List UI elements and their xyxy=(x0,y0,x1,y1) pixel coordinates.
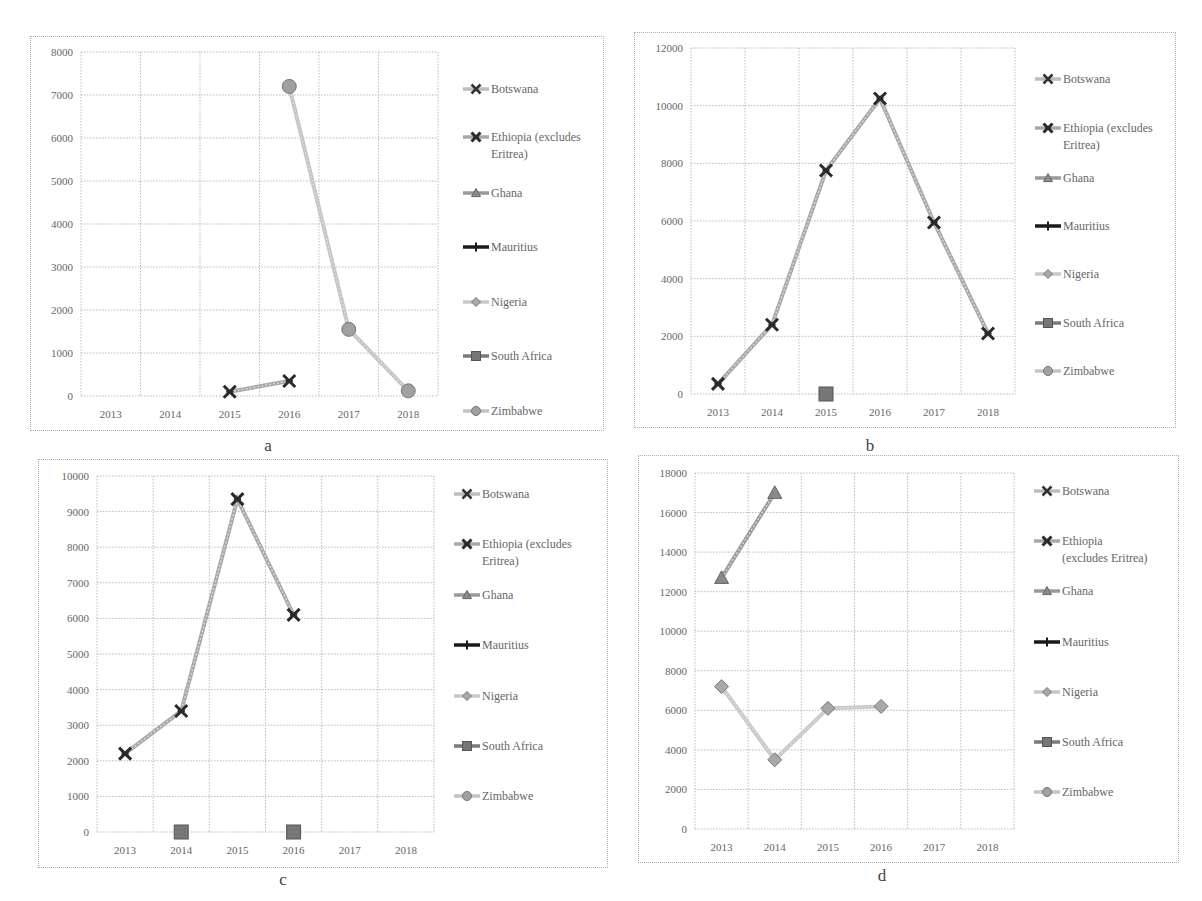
y-tick-label: 4000 xyxy=(67,684,90,696)
legend-item: Ethiopia (excludesEritrea) xyxy=(463,130,581,161)
legend-label: Ghana xyxy=(491,186,523,200)
legend-label: South Africa xyxy=(1062,735,1124,749)
panel-label-c: c xyxy=(263,870,303,890)
legend-item: Mauritius xyxy=(463,240,538,254)
legend-item: Botswana xyxy=(454,487,530,501)
y-tick-label: 8000 xyxy=(51,46,74,58)
y-tick-label: 12000 xyxy=(660,586,688,598)
x-tick-label: 2016 xyxy=(870,841,893,853)
diamond-marker-icon xyxy=(472,298,481,307)
legend-item: Mauritius xyxy=(454,638,529,652)
triangle-marker-icon xyxy=(768,486,782,499)
y-tick-label: 6000 xyxy=(665,704,688,716)
x-tick-label: 2015 xyxy=(226,844,249,856)
legend-item: Mauritius xyxy=(1034,635,1109,649)
circle-marker-icon xyxy=(1044,367,1053,376)
legend-item: Nigeria xyxy=(1034,685,1099,699)
star-marker-icon xyxy=(119,748,131,760)
legend-item: Nigeria xyxy=(1035,267,1100,281)
x-tick-label: 2018 xyxy=(977,406,1000,418)
star-marker-icon xyxy=(712,378,724,390)
circle-marker-icon xyxy=(1043,788,1052,797)
legend-item: Nigeria xyxy=(463,295,528,309)
x-tick-label: 2013 xyxy=(707,406,730,418)
legend-label: Eritrea) xyxy=(482,554,519,568)
legend-item: South Africa xyxy=(463,349,553,363)
legend-item: Zimbabwe xyxy=(1035,364,1114,378)
y-tick-label: 4000 xyxy=(51,218,74,230)
legend-label: Ghana xyxy=(1062,584,1094,598)
y-tick-label: 0 xyxy=(682,823,688,835)
legend-label: South Africa xyxy=(482,739,544,753)
x-tick-label: 2017 xyxy=(339,844,362,856)
legend-label: Ethiopia (excludes xyxy=(491,130,581,144)
square-marker-icon xyxy=(819,387,833,401)
x-tick-label: 2017 xyxy=(338,408,361,420)
y-tick-label: 9000 xyxy=(67,506,90,518)
legend-label: Ethiopia (excludes xyxy=(482,537,572,551)
y-tick-label: 7000 xyxy=(51,89,74,101)
legend-item: Ghana xyxy=(454,588,514,602)
y-tick-label: 10000 xyxy=(62,470,90,482)
x-tick-label: 2013 xyxy=(100,408,123,420)
legend-item: Ghana xyxy=(1035,171,1095,185)
y-tick-label: 1000 xyxy=(67,790,90,802)
circle-marker-icon xyxy=(401,384,415,398)
y-tick-label: 10000 xyxy=(660,625,688,637)
legend-item: Ethiopia (excludesEritrea) xyxy=(1035,121,1153,152)
legend-label: Nigeria xyxy=(482,689,519,703)
line-chart-a: 0100020003000400050006000700080002013201… xyxy=(31,37,605,432)
legend-item: Ghana xyxy=(463,186,523,200)
legend-item: Zimbabwe xyxy=(454,789,533,803)
x-tick-label: 2015 xyxy=(815,406,838,418)
y-tick-label: 0 xyxy=(84,826,90,838)
x-tick-label: 2018 xyxy=(976,841,999,853)
legend: BotswanaEthiopia(excludes Eritrea)GhanaM… xyxy=(1034,484,1148,799)
x-tick-label: 2013 xyxy=(114,844,137,856)
square-marker-icon xyxy=(1043,738,1052,747)
legend-label: Mauritius xyxy=(491,240,538,254)
panel-label-a: a xyxy=(248,436,288,456)
x-tick-label: 2015 xyxy=(817,841,840,853)
legend-item: Mauritius xyxy=(1035,219,1110,233)
y-tick-label: 3000 xyxy=(67,719,90,731)
legend: BotswanaEthiopia (excludesEritrea)GhanaM… xyxy=(1035,72,1153,378)
legend-label: Botswana xyxy=(1062,484,1110,498)
y-tick-label: 18000 xyxy=(660,467,688,479)
y-tick-label: 8000 xyxy=(661,157,684,169)
legend-label: Nigeria xyxy=(1063,267,1100,281)
square-marker-icon xyxy=(463,742,472,751)
diamond-marker-icon xyxy=(1044,270,1053,279)
x-tick-label: 2017 xyxy=(923,841,946,853)
chart-panel-a: 0100020003000400050006000700080002013201… xyxy=(30,36,604,431)
legend-label: Ghana xyxy=(482,588,514,602)
legend-label: Ethiopia xyxy=(1062,534,1103,548)
legend-label: Zimbabwe xyxy=(482,789,533,803)
grid xyxy=(695,473,1014,829)
grid xyxy=(97,476,434,832)
legend-item: Botswana xyxy=(463,82,539,96)
legend-label: (excludes Eritrea) xyxy=(1062,551,1148,565)
y-tick-label: 12000 xyxy=(656,42,684,54)
grid xyxy=(691,48,1015,394)
chart-panel-b: 0200040006000800010000120002013201420152… xyxy=(634,32,1176,428)
legend-item: Ethiopia(excludes Eritrea) xyxy=(1034,534,1148,565)
legend: BotswanaEthiopia (excludesEritrea)GhanaM… xyxy=(454,487,572,803)
legend-item: Ghana xyxy=(1034,584,1094,598)
legend-label: Ethiopia (excludes xyxy=(1063,121,1153,135)
circle-marker-icon xyxy=(282,79,296,93)
y-tick-label: 8000 xyxy=(67,541,90,553)
y-tick-label: 7000 xyxy=(67,577,90,589)
y-tick-label: 6000 xyxy=(67,612,90,624)
legend-item: Zimbabwe xyxy=(1034,785,1113,799)
legend-label: Nigeria xyxy=(491,295,528,309)
y-tick-label: 5000 xyxy=(51,175,74,187)
legend-item: Botswana xyxy=(1034,484,1110,498)
legend-item: South Africa xyxy=(1034,735,1124,749)
circle-marker-icon xyxy=(472,407,481,416)
legend-item: South Africa xyxy=(454,739,544,753)
x-tick-label: 2014 xyxy=(159,408,182,420)
y-tick-label: 4000 xyxy=(661,273,684,285)
y-tick-label: 4000 xyxy=(665,744,688,756)
y-tick-label: 2000 xyxy=(661,330,684,342)
